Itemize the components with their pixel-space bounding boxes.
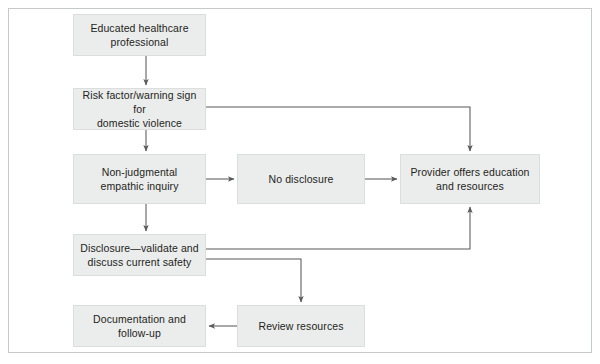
node-label: Provider offers education and resources xyxy=(410,165,529,193)
node-review-resources[interactable]: Review resources xyxy=(237,305,365,347)
node-label: No disclosure xyxy=(269,172,334,186)
node-disclosure-validate[interactable]: Disclosure—validate and discuss current … xyxy=(73,234,206,276)
connector-disclosure-to-review xyxy=(206,259,301,302)
node-label: Review resources xyxy=(258,319,343,333)
connector-disclosure-to-provider xyxy=(206,207,470,249)
node-risk-factor[interactable]: Risk factor/warning sign for domestic vi… xyxy=(73,88,206,130)
flowchart-figure: Educated healthcare professional Risk fa… xyxy=(0,0,600,364)
node-empathic-inquiry[interactable]: Non-judgmental empathic inquiry xyxy=(73,154,206,204)
node-label: Documentation and follow-up xyxy=(79,312,200,340)
node-label: Non-judgmental empathic inquiry xyxy=(100,165,178,193)
node-provider-offers[interactable]: Provider offers education and resources xyxy=(400,154,540,204)
node-label: Educated healthcare professional xyxy=(90,21,188,49)
node-label: Risk factor/warning sign for domestic vi… xyxy=(79,88,200,131)
connector-risk-to-provider xyxy=(206,107,470,151)
node-label: Disclosure—validate and discuss current … xyxy=(80,241,198,269)
node-educated-professional[interactable]: Educated healthcare professional xyxy=(73,14,206,56)
node-no-disclosure[interactable]: No disclosure xyxy=(237,154,365,204)
node-documentation-followup[interactable]: Documentation and follow-up xyxy=(73,305,206,347)
